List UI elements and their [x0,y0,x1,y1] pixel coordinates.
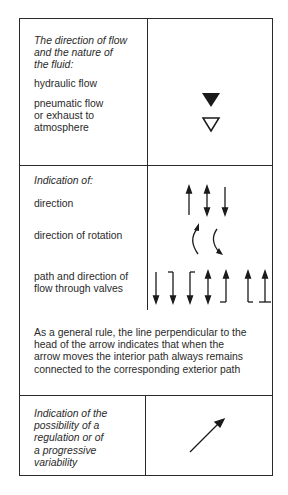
regulation-label: Indication of the possibility of a regul… [34,408,107,469]
pneumatic-flow-label: pneumatic flow or exhaust to atmosphere [34,98,103,135]
valve-path-arrows-icon [150,268,275,308]
column-divider-bottom [145,395,146,476]
hydraulic-flow-label: hydraulic flow [34,78,97,90]
indication-heading: Indication of: [34,175,93,187]
diagonal-arrow-icon [188,418,228,454]
filled-triangle-icon [201,92,221,108]
row-divider-1 [19,165,273,166]
column-divider-middle [147,165,148,310]
general-rule-text: As a general rule, the line perpendicula… [34,327,247,376]
hollow-triangle-icon [201,116,221,134]
valve-path-label: path and direction of flow through valve… [34,271,128,295]
direction-arrows-icon [180,185,240,220]
direction-label: direction [34,198,73,210]
row-divider-2 [19,395,273,396]
rotation-arrows-icon [185,222,235,258]
rotation-label: direction of rotation [34,230,122,242]
flow-heading: The direction of flow and the nature of … [34,35,127,72]
column-divider-top [147,18,148,166]
